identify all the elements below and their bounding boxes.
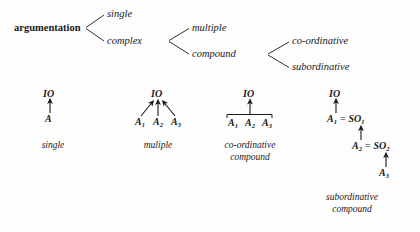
coordinative-premise-a1-sub: 1 (235, 122, 238, 129)
multiple-premise-a2: A2 (153, 117, 163, 127)
coordinative-premise-a3-sub: 3 (269, 122, 272, 129)
subordinative-premise-a1-letter: A (327, 113, 334, 124)
subordinative-subconclusion-so1-letter: SO (349, 113, 362, 124)
caption-coordinative-line-2: compound (225, 152, 276, 164)
subordinative-premise-a2-letter: A (352, 140, 359, 151)
arrows-multiple (141, 102, 175, 116)
subordinative-conclusion-io: IO (329, 89, 340, 99)
coordinative-premise-a1: A1 (228, 118, 238, 128)
coordinative-premise-a3-letter: A (262, 117, 269, 128)
multiple-premise-a3-letter: A (171, 116, 178, 127)
coordinative-premise-a2-letter: A (245, 117, 252, 128)
caption-multiple: muliple (144, 140, 173, 152)
multiple-premise-a3: A3 (171, 117, 181, 127)
convergence-bar-coordinative (227, 102, 272, 119)
caption-multiple-line-1: muliple (144, 140, 173, 152)
single-premise-a: A (45, 114, 52, 124)
subordinative-premise-a3-sub: 3 (386, 172, 389, 179)
subordinative-chain-row-3: A3 (379, 168, 389, 178)
arrows-subordinative (336, 101, 386, 167)
tree-node-co-ordinative[interactable]: co-ordinative (292, 36, 348, 47)
coordinative-conclusion-io: IO (243, 89, 254, 99)
subordinative-subconclusion-so2-sub: 2 (386, 145, 389, 152)
multiple-conclusion-io: IO (151, 89, 162, 99)
caption-subordinative-line-1: subordinative (326, 192, 378, 204)
caption-single-line-1: single (42, 140, 65, 152)
subordinative-premise-a3-letter: A (379, 167, 386, 178)
caption-coordinative-compound: co-ordinative compound (225, 140, 276, 164)
coordinative-premise-a2: A2 (245, 118, 255, 128)
tree-node-argumentation[interactable]: argumentation (14, 23, 81, 34)
multiple-premise-a1-letter: A (135, 116, 142, 127)
multiple-premise-a1: A1 (135, 117, 145, 127)
multiple-premise-a3-sub: 3 (178, 121, 181, 128)
coordinative-premise-a1-letter: A (228, 117, 235, 128)
subordinative-chain-row-1: A1=SO1 (327, 114, 365, 124)
tree-node-complex[interactable]: complex (107, 36, 142, 47)
coordinative-premise-a3: A3 (262, 118, 272, 128)
coordinative-premise-a2-sub: 2 (252, 122, 255, 129)
single-conclusion-io: IO (43, 89, 54, 99)
tree-node-compound[interactable]: compound (192, 49, 236, 60)
subordinative-premise-a2-sub: 2 (359, 145, 362, 152)
multiple-premise-a1-sub: 1 (142, 121, 145, 128)
multiple-premise-a2-sub: 2 (160, 121, 163, 128)
tree-node-single[interactable]: single (107, 9, 132, 20)
caption-subordinative-line-2: compound (326, 204, 378, 216)
subordinative-subconclusion-so1-sub: 1 (361, 118, 364, 125)
subordinative-chain-row-2: A2=SO2 (352, 141, 390, 151)
figure-canvas: argumentation single complex multiple co… (0, 0, 420, 232)
subordinative-equals-2: = (362, 140, 374, 151)
subordinative-equals-1: = (337, 113, 349, 124)
caption-single: single (42, 140, 65, 152)
tree-node-subordinative[interactable]: subordinative (292, 62, 349, 73)
caption-subordinative-compound: subordinative compound (326, 192, 378, 216)
subordinative-premise-a1-sub: 1 (334, 118, 337, 125)
caption-coordinative-line-1: co-ordinative (225, 140, 276, 152)
tree-node-multiple[interactable]: multiple (192, 23, 226, 34)
subordinative-subconclusion-so2-letter: SO (374, 140, 387, 151)
multiple-premise-a2-letter: A (153, 116, 160, 127)
